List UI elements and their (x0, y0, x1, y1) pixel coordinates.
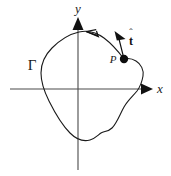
y-axis-label: y (73, 1, 81, 16)
closed-curve-gamma (41, 31, 143, 140)
figure-container: y x Γ P t ˆ (0, 0, 171, 176)
orientation-arrow-barb-lower (86, 30, 96, 32)
tangent-vector-arrowhead-icon (115, 31, 126, 41)
x-axis-arrowhead (141, 84, 153, 95)
y-axis-arrowhead (73, 17, 84, 30)
curve-diagram: y x Γ P t ˆ (0, 0, 171, 176)
curve-label-gamma: Γ (28, 57, 37, 73)
point-p-marker (120, 55, 128, 63)
point-label-p: P (109, 53, 117, 65)
x-axis-label: x (156, 81, 163, 96)
